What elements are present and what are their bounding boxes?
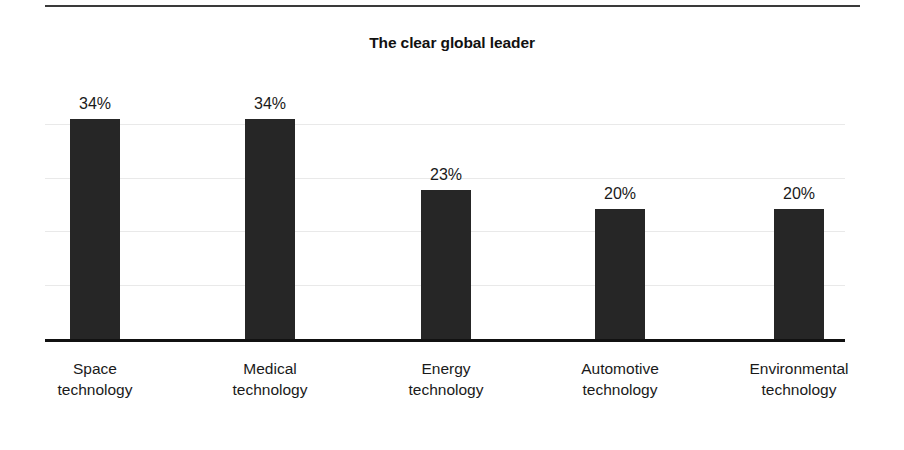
bar-value-label: 23% [391, 166, 501, 184]
x-axis-label-line2: technology [532, 379, 708, 400]
x-axis-label-line1: Energy [421, 360, 470, 377]
bar-group[interactable]: 34% [245, 119, 295, 339]
bar-value-label: 34% [40, 95, 150, 113]
bar-group[interactable]: 34% [70, 119, 120, 339]
x-axis-label-line1: Space [73, 360, 117, 377]
x-axis-label-line1: Environmental [749, 360, 848, 377]
x-axis-line [45, 339, 845, 342]
bar[interactable] [245, 119, 295, 339]
bar-value-label: 34% [215, 95, 325, 113]
x-axis-label-line2: technology [182, 379, 358, 400]
bar-group[interactable]: 20% [774, 209, 824, 339]
x-axis-labels-group: SpacetechnologyMedicaltechnologyEnergyte… [45, 358, 845, 418]
x-axis-label-line2: technology [358, 379, 534, 400]
x-axis-label: Energytechnology [358, 358, 534, 400]
x-axis-label-line1: Medical [243, 360, 296, 377]
x-axis-label: Automotivetechnology [532, 358, 708, 400]
x-axis-label: Spacetechnology [7, 358, 183, 400]
bar[interactable] [774, 209, 824, 339]
x-axis-label: Environmentaltechnology [711, 358, 887, 400]
plot-area: 34%34%23%20%20% [45, 70, 845, 342]
top-horizontal-rule [45, 5, 860, 7]
bar-group[interactable]: 20% [595, 209, 645, 339]
x-axis-label-line1: Automotive [581, 360, 659, 377]
bar-group[interactable]: 23% [421, 190, 471, 339]
x-axis-label-line2: technology [7, 379, 183, 400]
bars-group: 34%34%23%20%20% [45, 70, 845, 342]
x-axis-label-line2: technology [711, 379, 887, 400]
bar[interactable] [70, 119, 120, 339]
bar[interactable] [421, 190, 471, 339]
bar-value-label: 20% [565, 185, 675, 203]
page-title: The clear global leader [0, 34, 904, 52]
chart-page: The clear global leader 34%34%23%20%20% … [0, 0, 904, 450]
x-axis-label: Medicaltechnology [182, 358, 358, 400]
bar-value-label: 20% [744, 185, 854, 203]
bar[interactable] [595, 209, 645, 339]
